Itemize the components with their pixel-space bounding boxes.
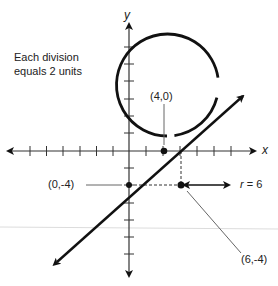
scale-note: Each division equals 2 units [14,50,82,78]
leader-lines [86,104,241,253]
point-x-intercept [161,148,168,155]
scale-note-line-1: Each division [14,50,82,64]
x-axis [12,146,255,156]
center-guide-lines [129,151,181,185]
y-axis [124,28,134,276]
scan-artifact-line [0,227,278,229]
scale-note-line-2: equals 2 units [14,64,82,78]
coordinate-diagram: Each division equals 2 units y x (4,0) (… [0,0,278,286]
point-center [178,182,185,189]
x-axis-label: x [262,143,268,157]
center-label: (6,-4) [241,253,267,265]
point-y-intercept [126,182,132,188]
radius-value: = 6 [244,178,263,190]
diagram-canvas [0,0,278,286]
x-intercept-label: (4,0) [150,90,173,102]
y-intercept-label: (0,-4) [48,178,74,190]
y-axis-label: y [124,8,130,22]
radius-label: r = 6 [240,178,262,190]
circle [116,34,218,136]
linear-function-line [57,96,243,262]
